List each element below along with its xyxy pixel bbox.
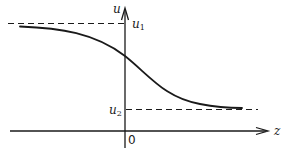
z-axis-label: z <box>274 125 280 137</box>
u1-level-label: u1 <box>132 18 145 32</box>
u2-level-label: u2 <box>109 104 122 118</box>
kink-profile-diagram: u u1 u2 z 0 <box>0 0 288 153</box>
u1-subscript: 1 <box>140 23 145 32</box>
u1-base: u <box>132 17 140 31</box>
u2-base: u <box>109 103 117 117</box>
u2-subscript: 2 <box>117 109 122 118</box>
u-axis-label: u <box>113 3 121 15</box>
origin-label: 0 <box>128 134 136 146</box>
kink-curve <box>20 27 242 109</box>
